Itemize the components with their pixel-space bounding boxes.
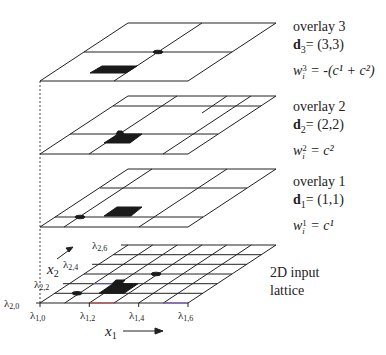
overlay-2-d-value: d2= (2,2) [293,116,345,139]
overlay-2-title: overlay 2 [293,98,345,116]
overlay-2-grid [40,96,276,154]
overlay-3-weight: w3i = -(c¹ + c²) [293,62,375,80]
diagram-canvas: λ2,0 λ2,2 λ2,4 λ2,6 λ1,0 λ1,2 λ1,4 λ1,6 … [0,0,386,355]
svg-text:λ2,4: λ2,4 [63,258,78,272]
svg-text:λ2,6: λ2,6 [92,239,107,253]
overlay-3-d-value: d3= (3,3) [293,36,375,59]
svg-text:λ1,0: λ1,0 [30,309,45,323]
overlay-3-node-marker [153,50,163,54]
lattice-node-marker-2 [151,272,161,276]
overlay-2-weight: w2i = c² [293,142,345,160]
svg-text:λ1,4: λ1,4 [129,309,144,323]
svg-text:λ1,2: λ1,2 [80,309,95,323]
overlay-1-label-block: overlay 1 d1= (1,1) w1i = c¹ [293,173,345,235]
lattice-label-block: 2D input lattice [270,264,319,300]
overlay-1-d-value: d1= (1,1) [293,191,345,214]
x2-axis-label: x2 [46,261,59,279]
overlay-3-grid [40,23,276,81]
svg-text:λ2,0: λ2,0 [4,297,19,311]
overlay-1-title: overlay 1 [293,173,345,191]
x1-axis-arrow [123,328,163,334]
overlay-1-weight: w1i = c¹ [293,217,345,235]
lattice-node-marker-1 [72,292,82,296]
overlay-1-grid [40,169,276,227]
svg-text:λ2,2: λ2,2 [34,278,49,292]
x1-axis-label: x1 [104,323,117,341]
svg-text:λ1,6: λ1,6 [178,309,193,323]
overlay-1-node-marker [75,215,85,219]
overlay-3-title: overlay 3 [293,18,375,36]
lattice-title-line2: lattice [270,282,319,300]
x1-tick-labels: λ1,0 λ1,2 λ1,4 λ1,6 [30,309,193,323]
lattice-title-line1: 2D input [270,264,319,282]
input-lattice-grid [36,245,276,307]
overlay-2-label-block: overlay 2 d2= (2,2) w2i = c² [293,98,345,160]
overlay-3-label-block: overlay 3 d3= (3,3) w3i = -(c¹ + c²) [293,18,375,80]
